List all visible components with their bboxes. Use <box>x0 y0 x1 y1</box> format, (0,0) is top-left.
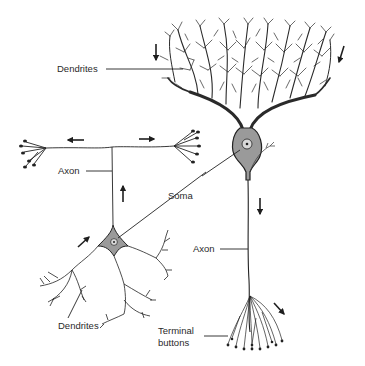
arrow-down-left-icon <box>339 46 344 62</box>
label-terminal-line2: buttons <box>158 337 189 348</box>
neuron-illustration <box>0 0 365 366</box>
arrow-up-right-icon <box>78 237 89 247</box>
soma-leader-left <box>118 172 206 238</box>
arrow-down-right-icon <box>274 303 284 314</box>
label-dendrites-bottom: Dendrites <box>58 320 99 331</box>
leader-lines <box>68 69 248 336</box>
neuron-diagram: Dendrites Axon Soma Axon Dendrites Termi… <box>0 0 365 366</box>
pyramidal-axon-branches <box>19 130 201 226</box>
soma-leader-right <box>202 150 240 176</box>
purkinje-soma <box>233 128 262 180</box>
purkinje-dendritic-tree <box>160 18 334 130</box>
label-dendrites-top: Dendrites <box>57 63 98 74</box>
pyramidal-soma <box>98 225 128 256</box>
label-soma: Soma <box>168 190 193 201</box>
dendrites-bottom-leader <box>68 290 82 318</box>
label-axon-left: Axon <box>58 165 80 176</box>
signal-direction-arrows <box>68 44 344 314</box>
label-axon-right: Axon <box>193 243 215 254</box>
label-terminal-line1: Terminal <box>158 325 194 336</box>
